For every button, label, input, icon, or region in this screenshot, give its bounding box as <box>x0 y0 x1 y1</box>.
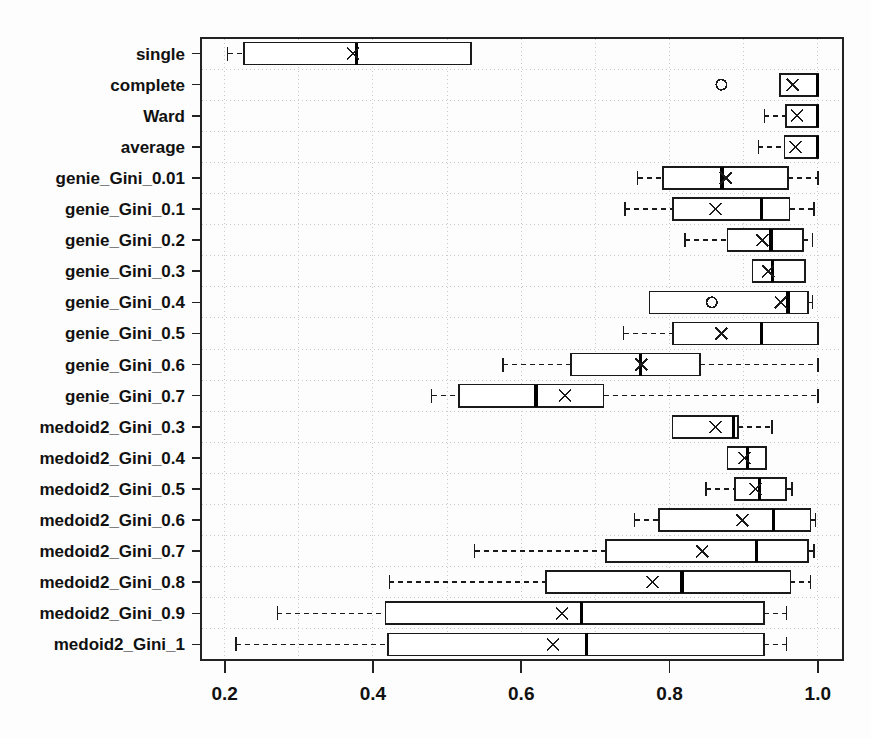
box-iqr <box>673 322 818 344</box>
boxplot-item <box>727 447 766 469</box>
box-iqr <box>672 416 737 438</box>
y-axis-tick-label: Ward <box>143 107 185 126</box>
y-axis-tick-label: medoid2_Gini_0.9 <box>40 604 186 623</box>
boxplot-svg: singlecompleteWardaveragegenie_Gini_0.01… <box>0 0 871 738</box>
y-axis-tick-label: genie_Gini_0.1 <box>65 200 185 219</box>
boxplot-figure: singlecompleteWardaveragegenie_Gini_0.01… <box>0 0 871 738</box>
y-axis-tick-label: medoid2_Gini_0.7 <box>40 542 186 561</box>
box-iqr <box>388 633 764 655</box>
box-iqr <box>786 105 818 127</box>
box-iqr <box>659 509 810 531</box>
x-axis-tick-label: 0.6 <box>508 683 534 704</box>
box-iqr <box>386 602 764 624</box>
y-axis-tick-label: genie_Gini_0.4 <box>65 293 186 312</box>
y-axis-tick-label: medoid2_Gini_0.5 <box>40 480 186 499</box>
y-axis-tick-label: medoid2_Gini_1 <box>54 635 185 654</box>
y-axis-tick-label: single <box>136 45 185 64</box>
y-axis-tick-label: medoid2_Gini_0.8 <box>40 573 186 592</box>
boxplot-item <box>228 43 471 65</box>
y-axis-tick-label: genie_Gini_0.3 <box>65 262 185 281</box>
y-axis-tick-label: genie_Gini_0.7 <box>65 387 185 406</box>
box-iqr <box>727 229 803 251</box>
x-axis-tick-label: 1.0 <box>805 683 831 704</box>
y-axis-tick-label: genie_Gini_0.01 <box>56 169 185 188</box>
y-axis-tick-label: medoid2_Gini_0.3 <box>40 418 186 437</box>
boxplot-item <box>650 291 813 313</box>
x-axis-tick-label: 0.4 <box>360 683 387 704</box>
boxplot-item <box>753 260 806 282</box>
box-iqr <box>650 291 809 313</box>
y-axis-tick-label: medoid2_Gini_0.4 <box>40 449 186 468</box>
y-axis-tick-label: genie_Gini_0.2 <box>65 231 185 250</box>
y-axis-tick-label: complete <box>110 76 185 95</box>
y-axis-tick-label: genie_Gini_0.5 <box>65 324 185 343</box>
box-iqr <box>673 198 789 220</box>
y-axis-tick-label: average <box>121 138 185 157</box>
y-axis-tick-label: genie_Gini_0.6 <box>65 356 185 375</box>
box-iqr <box>546 571 791 593</box>
box-iqr <box>606 540 808 562</box>
y-axis-tick-label: medoid2_Gini_0.6 <box>40 511 186 530</box>
box-iqr <box>784 136 817 158</box>
x-axis-tick-label: 0.2 <box>212 683 238 704</box>
box-iqr <box>459 385 604 407</box>
box-iqr <box>571 354 700 376</box>
boxplot-item <box>635 509 816 531</box>
box-iqr <box>780 74 818 96</box>
box-iqr <box>753 260 806 282</box>
x-axis-tick-label: 0.8 <box>656 683 682 704</box>
